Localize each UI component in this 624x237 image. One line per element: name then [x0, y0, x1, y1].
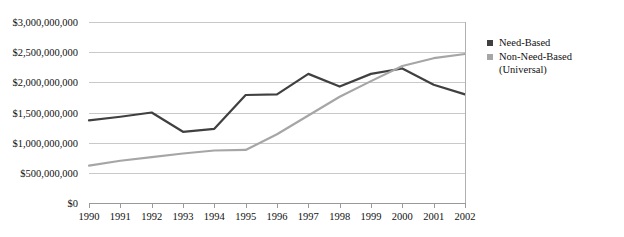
legend-item[interactable]: Need-Based [487, 36, 617, 49]
x-axis-tick-label: 1990 [79, 211, 100, 223]
x-axis-tick-label: 1996 [267, 211, 288, 223]
series-layer [89, 22, 465, 203]
x-axis-labels: 1990199119921993199419951996199719981999… [0, 211, 624, 231]
x-axis-tick-label: 2000 [392, 211, 413, 223]
x-axis-tick-label: 1995 [235, 211, 256, 223]
y-axis-tick-label: $2,000,000,000 [12, 77, 78, 88]
y-axis-tick-label: $500,000,000 [20, 167, 78, 178]
y-axis-tick-label: $2,500,000,000 [12, 47, 78, 58]
x-axis-tick [340, 203, 341, 208]
plot-right-border [465, 22, 466, 203]
x-axis-tick [120, 203, 121, 208]
y-axis-tick-label: $1,500,000,000 [12, 107, 78, 118]
x-axis-tick-label: 1999 [361, 211, 382, 223]
legend-item[interactable]: Non-Need-Based (Universal) [487, 50, 617, 76]
x-axis-tick [371, 203, 372, 208]
x-axis-tick-label: 2002 [455, 211, 476, 223]
x-axis-tick [465, 203, 466, 208]
x-axis-tick [308, 203, 309, 208]
x-axis-tick-label: 1993 [173, 211, 194, 223]
x-axis-tick [434, 203, 435, 208]
x-axis-tick-label: 1994 [204, 211, 225, 223]
x-axis-ticks [89, 203, 466, 209]
x-axis-tick [183, 203, 184, 208]
x-axis-tick [152, 203, 153, 208]
x-axis-tick [89, 203, 90, 208]
x-axis-tick [277, 203, 278, 208]
x-axis-tick [402, 203, 403, 208]
legend-label: Non-Need-Based (Universal) [499, 50, 572, 76]
x-axis-tick-label: 1991 [110, 211, 131, 223]
chart-legend: Need-BasedNon-Need-Based (Universal) [487, 36, 617, 77]
x-axis-tick-label: 2001 [423, 211, 444, 223]
y-axis-tick-label: $0 [68, 198, 79, 209]
y-axis-tick-label: $1,000,000,000 [12, 137, 78, 148]
series-line [89, 68, 465, 131]
legend-label: Need-Based [499, 36, 550, 49]
legend-swatch-icon [487, 54, 493, 60]
x-axis-tick [246, 203, 247, 208]
y-axis-labels: $3,000,000,000$2,500,000,000$2,000,000,0… [0, 0, 86, 237]
x-axis-tick-label: 1997 [298, 211, 319, 223]
line-chart: $3,000,000,000$2,500,000,000$2,000,000,0… [0, 0, 624, 237]
plot-area [89, 22, 465, 203]
x-axis-tick [214, 203, 215, 208]
x-axis-tick-label: 1992 [141, 211, 162, 223]
y-axis-tick-label: $3,000,000,000 [12, 17, 78, 28]
x-axis-tick-label: 1998 [329, 211, 350, 223]
legend-swatch-icon [487, 40, 493, 46]
